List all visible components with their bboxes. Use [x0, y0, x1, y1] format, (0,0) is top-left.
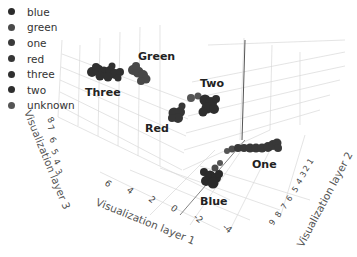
cluster-three[interactable] — [87, 63, 124, 82]
cluster-two[interactable] — [187, 93, 220, 117]
x-tick: 6 — [103, 178, 114, 190]
legend: blue green one red three two unknown — [6, 4, 75, 113]
cluster-blue[interactable] — [200, 160, 223, 189]
label-green: Green — [138, 50, 175, 63]
label-two: Two — [200, 77, 224, 90]
y-tick: 5 — [290, 185, 300, 194]
legend-label: blue — [27, 6, 50, 18]
x-tick: -4 — [221, 222, 235, 236]
y-tick: 6 — [284, 194, 294, 203]
y-tick: 1 — [305, 157, 315, 166]
label-one: One — [252, 158, 277, 171]
marker-icon — [8, 55, 15, 62]
label-three: Three — [85, 86, 121, 99]
label-red: Red — [145, 122, 169, 135]
legend-item-red[interactable]: red — [6, 51, 75, 67]
legend-item-three[interactable]: three — [6, 66, 75, 82]
legend-item-two[interactable]: two — [6, 82, 75, 98]
marker-icon — [8, 8, 15, 15]
marker-icon — [8, 24, 15, 31]
marker-icon — [8, 39, 15, 46]
legend-label: unknown — [27, 99, 75, 111]
marker-icon — [8, 71, 15, 78]
cluster-green[interactable] — [128, 62, 151, 85]
legend-item-one[interactable]: one — [6, 35, 75, 51]
cluster-one[interactable] — [224, 139, 282, 155]
legend-label: three — [27, 68, 55, 80]
z-tick: 7 — [45, 123, 56, 133]
x-tick: 0 — [169, 203, 180, 215]
legend-label: one — [27, 37, 47, 49]
x-tick: -2 — [192, 212, 205, 225]
y-tick: 9 — [267, 218, 277, 227]
marker-icon — [8, 86, 15, 93]
legend-item-blue[interactable]: blue — [6, 4, 75, 20]
x-axis-title: Visualization layer 1 — [94, 196, 197, 247]
x-tick: 4 — [125, 185, 136, 197]
label-blue: Blue — [200, 195, 227, 208]
legend-item-unknown[interactable]: unknown — [6, 98, 75, 114]
legend-label: green — [27, 21, 57, 33]
cluster-red[interactable] — [168, 103, 186, 124]
marker-icon — [8, 102, 15, 109]
z-tick: 6 — [47, 135, 58, 145]
legend-label: red — [27, 53, 44, 65]
legend-label: two — [27, 84, 46, 96]
legend-item-green[interactable]: green — [6, 20, 75, 36]
